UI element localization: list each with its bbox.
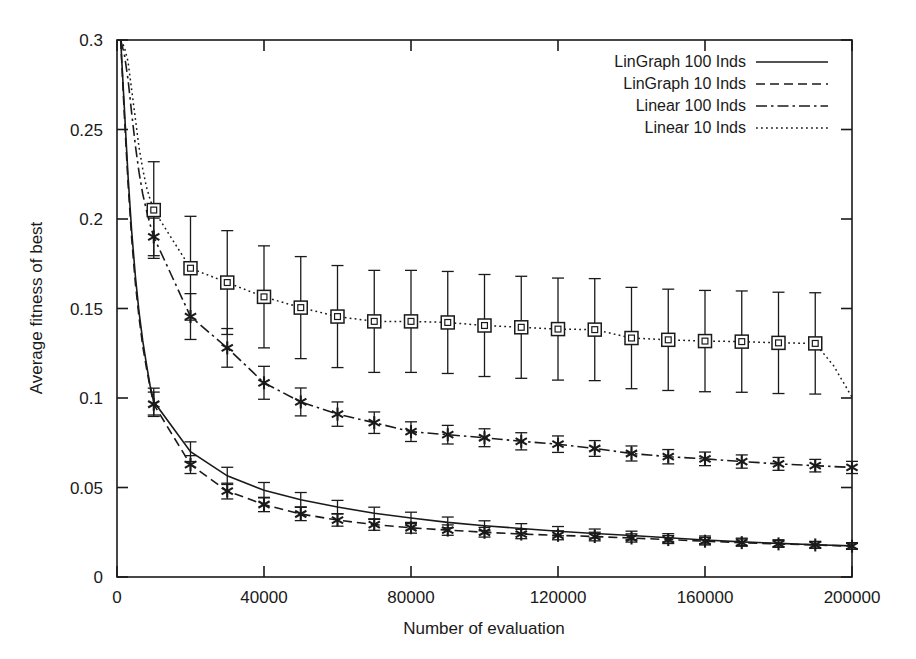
square-marker: [147, 204, 160, 217]
square-marker: [699, 335, 712, 348]
square-marker: [478, 319, 491, 332]
y-tick-label: 0: [94, 568, 103, 587]
square-marker: [625, 332, 638, 345]
y-tick-label: 0.15: [70, 300, 103, 319]
square-marker: [662, 333, 675, 346]
square-marker: [735, 335, 748, 348]
square-marker: [331, 310, 344, 323]
square-marker: [221, 276, 234, 289]
chart-figure: 00.050.10.150.20.250.3 04000080000120000…: [0, 0, 916, 659]
legend-label-0: LinGraph 100 Inds: [614, 53, 746, 70]
x-tick-label: 120000: [530, 588, 587, 607]
y-tick-label: 0.25: [70, 121, 103, 140]
square-marker: [405, 315, 418, 328]
square-marker: [258, 290, 271, 303]
square-marker: [772, 336, 785, 349]
x-tick-label: 80000: [387, 588, 434, 607]
y-axis-title: Average fitness of best: [27, 221, 46, 394]
legend-label-3: Linear 10 Inds: [645, 119, 746, 136]
fitness-convergence-chart: 00.050.10.150.20.250.3 04000080000120000…: [0, 0, 916, 659]
y-tick-label: 0.2: [79, 210, 103, 229]
x-tick-label: 40000: [240, 588, 287, 607]
x-tick-label: 200000: [824, 588, 881, 607]
square-marker: [368, 315, 381, 328]
y-tick-label: 0.1: [79, 389, 103, 408]
square-marker: [588, 323, 601, 336]
x-tick-label: 0: [112, 588, 121, 607]
y-tick-label: 0.3: [79, 31, 103, 50]
x-tick-label: 160000: [677, 588, 734, 607]
legend-label-2: Linear 100 Inds: [636, 97, 746, 114]
square-marker: [184, 262, 197, 275]
square-marker: [515, 321, 528, 334]
square-marker: [294, 301, 307, 314]
square-marker: [441, 316, 454, 329]
square-marker: [552, 323, 565, 336]
y-tick-label: 0.05: [70, 479, 103, 498]
square-marker: [809, 337, 822, 350]
legend-label-1: LinGraph 10 Inds: [623, 75, 746, 92]
x-axis-title: Number of evaluation: [403, 619, 565, 638]
